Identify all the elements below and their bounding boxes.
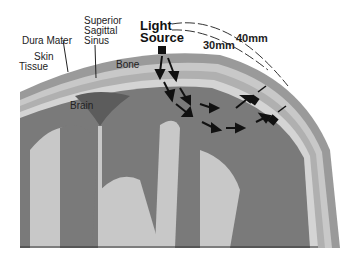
label-dura-mater: Dura Mater [22,36,72,46]
label-source: Source [140,32,184,44]
label-sinus: Sinus [84,36,109,46]
label-30mm: 30mm [203,40,235,50]
label-tissue: Tissue [19,62,48,72]
label-brain: Brain [70,101,93,111]
diagram-canvas: Dura Mater Skin Tissue Superior Sagittal… [0,0,348,254]
label-40mm: 40mm [236,33,268,43]
label-bone: Bone [116,60,139,70]
